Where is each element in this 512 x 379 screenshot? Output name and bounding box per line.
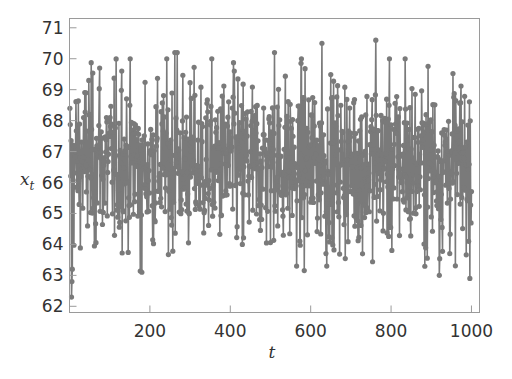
data-point bbox=[83, 162, 88, 167]
data-point bbox=[84, 128, 89, 133]
data-point bbox=[155, 76, 160, 81]
data-point bbox=[450, 71, 455, 76]
data-point bbox=[321, 153, 326, 158]
data-point bbox=[305, 232, 310, 237]
data-point bbox=[287, 231, 292, 236]
data-point bbox=[271, 147, 276, 152]
data-point bbox=[229, 144, 234, 149]
data-point bbox=[87, 167, 92, 172]
data-point bbox=[105, 213, 110, 218]
data-point bbox=[456, 139, 461, 144]
data-point bbox=[203, 115, 208, 120]
data-point bbox=[357, 128, 362, 133]
data-point bbox=[431, 143, 436, 148]
data-point bbox=[224, 192, 229, 197]
data-point bbox=[135, 153, 140, 158]
data-point bbox=[130, 160, 135, 165]
data-point bbox=[317, 197, 322, 202]
data-point bbox=[189, 140, 194, 145]
data-point bbox=[210, 182, 215, 187]
data-point bbox=[102, 201, 107, 206]
data-point bbox=[409, 189, 414, 194]
data-point bbox=[161, 93, 166, 98]
data-point bbox=[458, 83, 463, 88]
data-point bbox=[422, 192, 427, 197]
data-point bbox=[298, 152, 303, 157]
data-point bbox=[225, 115, 230, 120]
data-point bbox=[389, 248, 394, 253]
data-point bbox=[310, 195, 315, 200]
data-point bbox=[414, 161, 419, 166]
data-point bbox=[93, 190, 98, 195]
data-point bbox=[366, 177, 371, 182]
data-point bbox=[466, 167, 471, 172]
data-point bbox=[205, 109, 210, 114]
data-point bbox=[356, 235, 361, 240]
data-point bbox=[218, 106, 223, 111]
data-point bbox=[465, 198, 470, 203]
data-point bbox=[182, 185, 187, 190]
data-point bbox=[319, 120, 324, 125]
data-point bbox=[446, 181, 451, 186]
data-point bbox=[315, 215, 320, 220]
data-point bbox=[217, 232, 222, 237]
data-point bbox=[232, 111, 237, 116]
data-point bbox=[253, 131, 258, 136]
data-point bbox=[210, 214, 215, 219]
data-point bbox=[91, 206, 96, 211]
data-point bbox=[456, 161, 461, 166]
data-point bbox=[142, 182, 147, 187]
data-point bbox=[269, 152, 274, 157]
data-point bbox=[280, 207, 285, 212]
data-point bbox=[420, 145, 425, 150]
data-point bbox=[323, 158, 328, 163]
data-point bbox=[413, 211, 418, 216]
data-point bbox=[333, 138, 338, 143]
data-point bbox=[331, 79, 336, 84]
data-point bbox=[447, 251, 452, 256]
data-point bbox=[160, 100, 165, 105]
data-point bbox=[327, 193, 332, 198]
data-point bbox=[115, 215, 120, 220]
data-point bbox=[105, 170, 110, 175]
data-point bbox=[364, 183, 369, 188]
data-point bbox=[219, 213, 224, 218]
data-point bbox=[71, 178, 76, 183]
y-axis-label: xt bbox=[20, 169, 35, 193]
y-tick-label: 65 bbox=[42, 203, 64, 223]
data-point bbox=[96, 144, 101, 149]
data-point bbox=[306, 163, 311, 168]
data-point bbox=[456, 126, 461, 131]
data-point bbox=[171, 200, 176, 205]
data-point bbox=[330, 95, 335, 100]
data-point bbox=[321, 132, 326, 137]
data-point bbox=[417, 174, 422, 179]
data-point bbox=[404, 175, 409, 180]
data-point bbox=[277, 117, 282, 122]
data-point bbox=[267, 120, 272, 125]
data-point bbox=[245, 133, 250, 138]
data-point bbox=[418, 187, 423, 192]
data-point bbox=[192, 65, 197, 70]
data-point bbox=[386, 234, 391, 239]
y-tick-label: 66 bbox=[42, 173, 64, 193]
data-point bbox=[155, 136, 160, 141]
data-point bbox=[295, 165, 300, 170]
data-point bbox=[257, 151, 262, 156]
data-point bbox=[282, 147, 287, 152]
data-point bbox=[168, 157, 173, 162]
data-point bbox=[231, 121, 236, 126]
data-point bbox=[231, 60, 236, 65]
data-point bbox=[319, 41, 324, 46]
data-point bbox=[440, 249, 445, 254]
data-point bbox=[356, 138, 361, 143]
data-point bbox=[390, 147, 395, 152]
data-point bbox=[132, 192, 137, 197]
data-point bbox=[159, 109, 164, 114]
data-point bbox=[269, 164, 274, 169]
data-point bbox=[363, 112, 368, 117]
data-point bbox=[200, 139, 205, 144]
data-point bbox=[276, 183, 281, 188]
data-point bbox=[202, 208, 207, 213]
data-point bbox=[272, 50, 277, 55]
